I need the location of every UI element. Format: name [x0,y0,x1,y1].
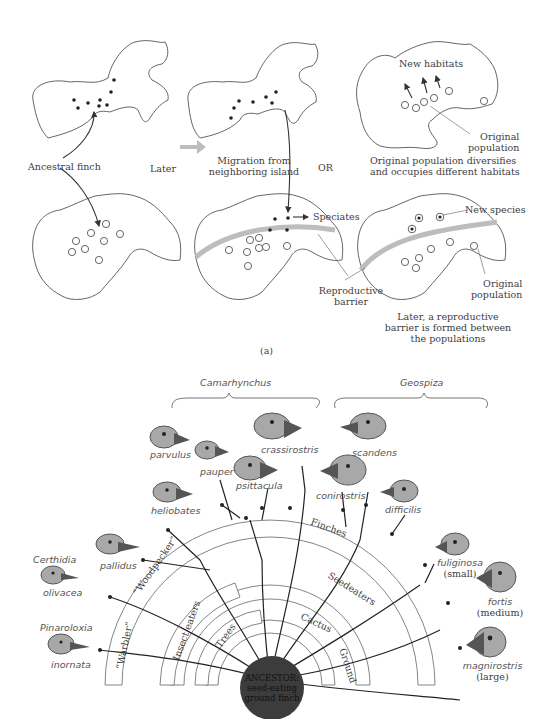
genus-certhidia: Certhidia [33,554,76,565]
species-fortis: fortis (medium) [470,596,530,618]
species-crassirostris: crassirostris [261,444,318,455]
species-fuliginosa: fuliginosa (small) [425,557,495,579]
species-scandens: scandens [352,447,397,458]
species-olivacea: olivacea [43,587,82,598]
species-psittacula: psittacula [236,480,283,491]
genus-camarhynchus: Camarhynchus [200,377,271,388]
species-heliobates: heliobates [151,505,200,516]
species-pauper: pauper [200,466,234,477]
species-pallidus: pallidus [100,560,137,571]
species-parvulus: parvulus [150,449,191,460]
species-conirostris: conirostris [316,490,366,501]
genus-pinaroloxia: Pinaroloxia [40,622,92,633]
species-magnirostris: magnirostris (large) [455,660,530,682]
ancestor-label: ANCESTOR: seed-eating ground finch [240,673,304,703]
species-inornata: inornata [51,659,91,670]
finch-phylogeny [0,0,536,719]
species-difficilis: difficilis [385,504,421,515]
genus-geospiza: Geospiza [400,377,443,388]
